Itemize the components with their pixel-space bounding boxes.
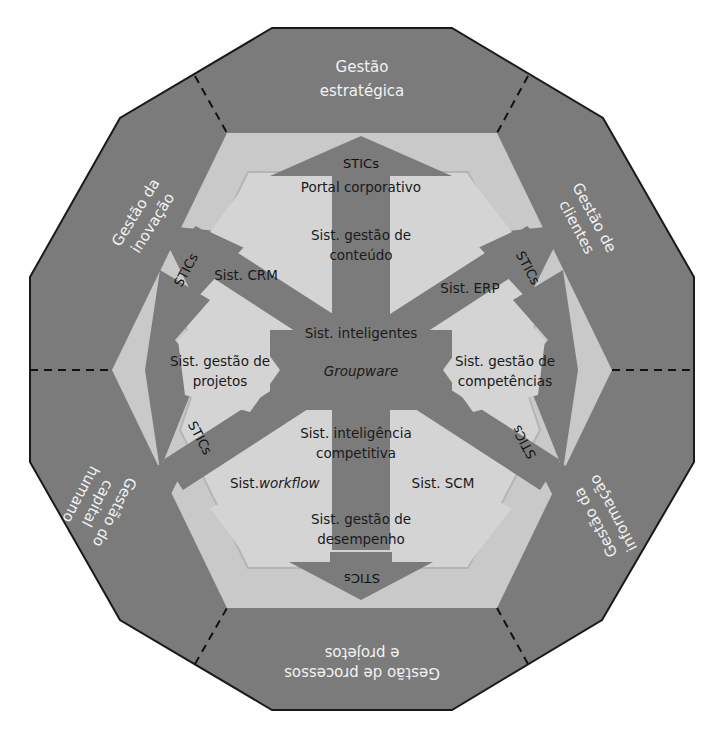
scm-label: Sist. SCM <box>412 475 475 491</box>
segment-processes-label-2: e projetos <box>324 644 399 662</box>
segment-processes-label-1: Gestão de processos <box>284 664 440 682</box>
competencies-label-1: Sist. gestão de <box>455 353 555 369</box>
competitive-intel-label-2: competitiva <box>316 445 396 461</box>
workflow-label: Sist.workflow <box>230 475 321 491</box>
competitive-intel-label-1: Sist. inteligência <box>300 425 412 441</box>
stics-bottom-label: STICs <box>344 571 380 586</box>
performance-label-2: desempenho <box>317 531 405 547</box>
crm-label: Sist. CRM <box>214 267 278 283</box>
intelligent-systems-label: Sist. inteligentes <box>305 325 418 341</box>
stics-top-label: STICs <box>343 156 379 171</box>
content-mgmt-label-1: Sist. gestão de <box>311 227 411 243</box>
projects-label-2: projetos <box>193 373 248 389</box>
portal-label: Portal corporativo <box>301 179 421 195</box>
content-mgmt-label-2: conteúdo <box>329 247 392 263</box>
erp-label: Sist. ERP <box>440 280 499 296</box>
groupware-label: Groupware <box>324 363 399 379</box>
km-systems-diagram: Gestão estratégica Gestão da inovação Ge… <box>0 0 723 740</box>
projects-label-1: Sist. gestão de <box>170 353 270 369</box>
segment-top-label-1: Gestão <box>336 58 389 76</box>
performance-label-1: Sist. gestão de <box>311 511 411 527</box>
segment-top-label-2: estratégica <box>320 82 405 100</box>
competencies-label-2: competências <box>458 373 552 389</box>
